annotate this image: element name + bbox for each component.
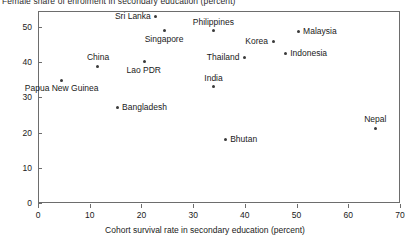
y-tick-label: 10 [6,163,32,173]
y-tick-mark [38,168,42,169]
y-tick-label: 30 [6,92,32,102]
data-point [60,79,63,82]
y-tick-label: 20 [6,128,32,138]
scatter-chart: Female share of enrolment in secondary e… [0,0,410,244]
data-point-label: Nepal [364,115,386,124]
data-point-label: Korea [245,37,268,46]
y-tick-mark [38,97,42,98]
data-point-label: Bhutan [230,135,257,144]
data-point-label: Philippines [193,18,234,27]
x-axis-title: Cohort survival rate in secondary educat… [0,225,410,235]
data-point-label: Malaysia [303,27,337,36]
x-tick-mark [90,204,91,208]
data-point [374,127,377,130]
x-tick-label: 20 [129,210,153,220]
x-tick-label: 40 [233,210,257,220]
data-point [272,40,275,43]
data-point-label: Thailand [207,53,240,62]
plot-area [38,11,400,203]
data-point [284,52,287,55]
x-tick-label: 70 [388,210,410,220]
x-tick-mark [193,204,194,208]
data-point-label: China [87,53,109,62]
data-point-label: Papua New Guinea [25,84,99,93]
y-tick-mark [38,133,42,134]
chart-title: Female share of enrolment in secondary e… [2,0,236,6]
x-tick-label: 30 [181,210,205,220]
data-point-label: Singapore [145,35,184,44]
data-point-label: Indonesia [290,49,327,58]
y-tick-mark [38,27,42,28]
x-tick-label: 50 [285,210,309,220]
data-point-label: Bangladesh [122,103,167,112]
x-tick-mark [141,204,142,208]
x-tick-mark [348,204,349,208]
x-tick-mark [297,204,298,208]
data-point-label: India [204,74,222,83]
x-tick-label: 60 [336,210,360,220]
y-tick-label: 40 [6,57,32,67]
x-tick-mark [400,204,401,208]
x-tick-mark [245,204,246,208]
y-tick-label: 50 [6,22,32,32]
x-tick-mark [38,204,39,208]
y-tick-label: 0 [6,198,32,208]
data-point-label: Sri Lanka [115,12,151,21]
y-tick-mark [38,62,42,63]
x-tick-label: 10 [78,210,102,220]
data-point-label: Lao PDR [127,66,162,75]
x-tick-label: 0 [26,210,50,220]
